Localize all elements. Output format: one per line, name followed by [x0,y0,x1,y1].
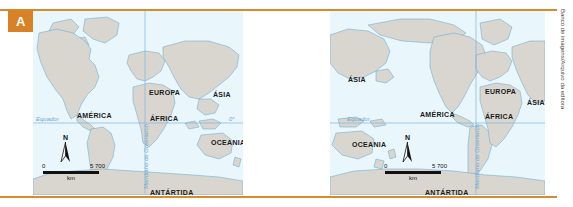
map-b-scale-max: 5 700 [432,163,447,169]
map-b-scale-bar: 0 5 700 km [385,163,441,181]
image-credit: Banco de imagens/Arquivo da editora [560,9,571,197]
map-a-scale-unit: km [43,175,99,181]
map-b-label-asia-left: ÁSIA [348,76,366,83]
map-b-label-europa: EUROPA [485,88,516,95]
map-a-scale-bar: 0 5 700 km [43,163,99,181]
map-a-scale-rule [43,171,99,174]
figure-two-world-maps: A [0,0,573,207]
map-a-label-africa: ÁFRICA [150,115,178,122]
map-b-north-label: N [402,134,413,142]
map-a-label-asia: ÁSIA [213,91,231,98]
bottom-rule [0,196,557,198]
map-a-scale-min: 0 [42,163,45,169]
north-arrow-icon [60,142,71,164]
north-arrow-icon [402,142,413,164]
map-b-label-america: AMÉRICA [420,111,455,118]
map-b-scale-rule [385,171,441,174]
map-b-label-antartida: ANTÁRTIDA [425,189,469,195]
map-b-label-asia-right: ÁSIA [527,99,545,106]
map-b-north-arrow: N [402,134,413,164]
map-a-equator-label: Equador [36,116,59,122]
map-panel-a: AMÉRICA EUROPA ÁSIA ÁFRICA OCEANIA ANTÁR… [33,11,243,195]
image-credit-text: Banco de imagens/Arquivo da editora [560,9,566,109]
map-a-north-label: N [60,134,71,142]
map-a-label-antartida: ANTÁRTIDA [150,189,194,195]
map-panel-b: ÁSIA AMÉRICA EUROPA ÁSIA ÁFRICA OCEANIA … [330,11,545,195]
map-a-degree-label: 0° [229,116,235,122]
map-a-label-america: AMÉRICA [77,112,112,119]
map-b-equator-label: Equador [347,116,370,122]
map-b-label-oceania: OCEANIA [352,141,386,148]
map-a-scale-max: 5 700 [90,163,105,169]
map-a-label-europa: EUROPA [149,89,180,96]
map-b-meridian-label: Meridiano de Greenwich [474,124,480,189]
map-b-label-africa: ÁFRICA [485,113,513,120]
map-a-meridian-label: Meridiano de Greenwich [143,124,149,189]
map-a-label-oceania: OCEANIA [211,139,243,146]
map-a-north-arrow: N [60,134,71,164]
map-b-scale-unit: km [385,175,441,181]
figure-badge-a: A [8,10,34,32]
map-b-scale-min: 0 [384,163,387,169]
